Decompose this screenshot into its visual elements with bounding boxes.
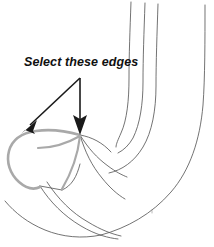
arrow-to-vertex [73, 78, 87, 135]
cad-wireframe-diagram [0, 0, 214, 247]
curve-outer-bottom [5, 201, 101, 237]
selected-edge-crease[interactable] [38, 136, 80, 148]
arrow-to-left-edge [21, 78, 80, 134]
facet-line-1 [40, 186, 62, 190]
selected-edges[interactable] [8, 130, 80, 189]
annotation-label: Select these edges [24, 56, 138, 70]
arrow-shaft-diagonal [30, 78, 80, 125]
selected-edge-loop[interactable] [8, 130, 80, 188]
curve-inner-1 [116, 2, 131, 147]
curve-inner-3 [109, 4, 158, 173]
callout-arrows [21, 78, 87, 135]
curve-body-mid-2 [80, 135, 127, 177]
screenshot-root: Select these edges [0, 0, 214, 247]
